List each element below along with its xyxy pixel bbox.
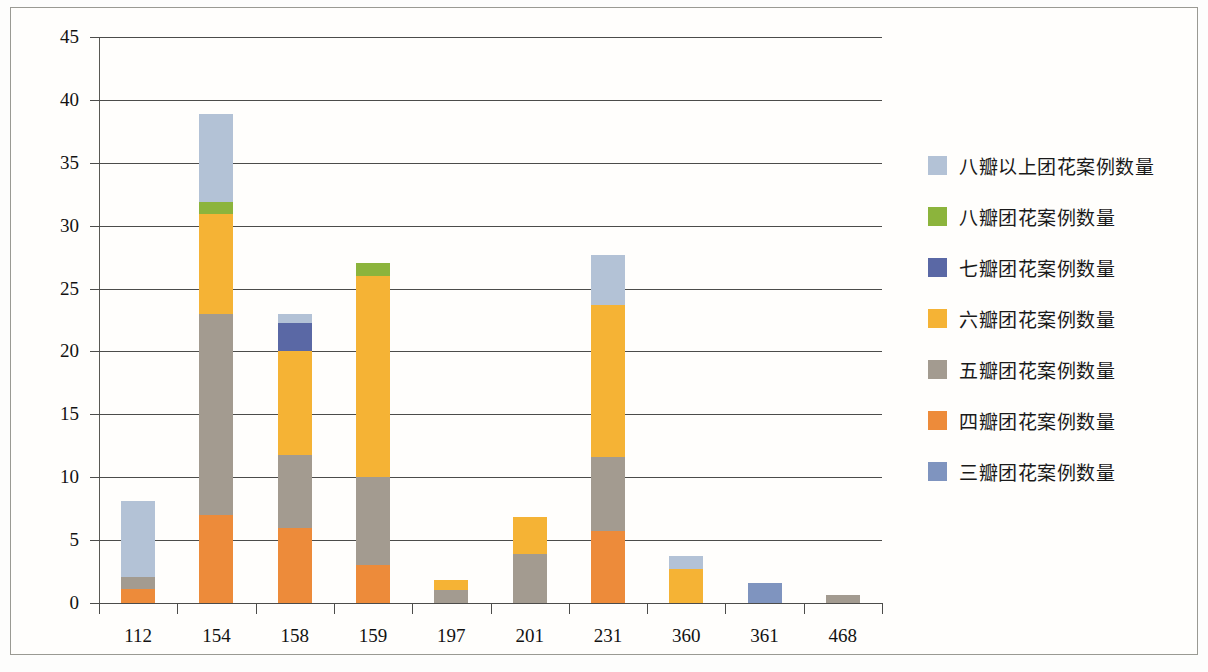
bar-360[interactable] xyxy=(669,37,703,603)
bar-segment[interactable] xyxy=(356,477,390,565)
legend-swatch-icon xyxy=(928,156,947,175)
y-axis-tick xyxy=(90,603,99,604)
x-axis-label: 158 xyxy=(250,626,340,645)
legend-item-label: 五瓣团花案例数量 xyxy=(959,356,1115,383)
x-axis-tick xyxy=(256,603,257,614)
bar-segment[interactable] xyxy=(591,305,625,457)
y-axis-tick xyxy=(90,414,99,415)
bar-segment[interactable] xyxy=(278,351,312,454)
y-axis-label: 15 xyxy=(37,404,79,423)
x-axis-label: 361 xyxy=(720,626,810,645)
legend-swatch-icon xyxy=(928,411,947,430)
y-axis-label: 5 xyxy=(37,530,79,549)
y-axis-tick xyxy=(90,540,99,541)
bar-112[interactable] xyxy=(121,37,155,603)
x-axis-label: 197 xyxy=(406,626,496,645)
y-axis-label: 0 xyxy=(37,593,79,612)
legend-item-label: 七瓣团花案例数量 xyxy=(959,254,1115,281)
x-axis-label: 360 xyxy=(641,626,731,645)
bar-segment[interactable] xyxy=(826,595,860,603)
x-axis-label: 231 xyxy=(563,626,653,645)
legend-swatch-icon xyxy=(928,309,947,328)
x-axis-tick xyxy=(882,603,883,614)
stacked-bar-chart: 051015202530354045 112154158159197201231… xyxy=(0,0,1208,672)
x-axis-tick xyxy=(804,603,805,614)
bar-segment[interactable] xyxy=(278,314,312,323)
bar-segment[interactable] xyxy=(748,583,782,603)
y-axis-tick xyxy=(90,289,99,290)
bar-segment[interactable] xyxy=(434,580,468,590)
bar-segment[interactable] xyxy=(356,276,390,477)
y-axis-tick xyxy=(90,100,99,101)
legend-swatch-icon xyxy=(928,207,947,226)
y-axis-label: 10 xyxy=(37,467,79,486)
bar-segment[interactable] xyxy=(121,589,155,603)
x-axis-label: 468 xyxy=(798,626,888,645)
chart-page: 051015202530354045 112154158159197201231… xyxy=(0,0,1208,672)
x-axis-tick xyxy=(569,603,570,614)
legend-item-label: 四瓣团花案例数量 xyxy=(959,407,1115,434)
bar-segment[interactable] xyxy=(513,554,547,603)
legend-item-label: 六瓣团花案例数量 xyxy=(959,305,1115,332)
y-axis-tick xyxy=(90,163,99,164)
bar-segment[interactable] xyxy=(278,455,312,528)
y-axis-label: 25 xyxy=(37,279,79,298)
legend-item-label: 八瓣以上团花案例数量 xyxy=(959,152,1154,179)
bar-segment[interactable] xyxy=(121,577,155,590)
y-axis-label: 40 xyxy=(37,90,79,109)
x-axis-label: 159 xyxy=(328,626,418,645)
bar-segment[interactable] xyxy=(434,590,468,603)
x-axis-label: 154 xyxy=(171,626,261,645)
bar-segment[interactable] xyxy=(121,501,155,576)
y-axis-tick xyxy=(90,226,99,227)
legend-swatch-icon xyxy=(928,258,947,277)
bar-segment[interactable] xyxy=(199,214,233,313)
bar-segment[interactable] xyxy=(199,515,233,603)
bar-segment[interactable] xyxy=(356,263,390,276)
x-axis-label: 201 xyxy=(485,626,575,645)
y-axis-tick xyxy=(90,477,99,478)
x-axis-tick xyxy=(177,603,178,614)
bar-361[interactable] xyxy=(748,37,782,603)
bar-468[interactable] xyxy=(826,37,860,603)
bar-154[interactable] xyxy=(199,37,233,603)
bar-segment[interactable] xyxy=(278,323,312,352)
bar-segment[interactable] xyxy=(513,517,547,553)
x-axis-tick xyxy=(412,603,413,614)
bar-segment[interactable] xyxy=(669,569,703,603)
legend-item-label: 三瓣团花案例数量 xyxy=(959,458,1115,485)
x-axis-tick xyxy=(725,603,726,614)
x-axis-tick xyxy=(99,603,100,614)
bar-231[interactable] xyxy=(591,37,625,603)
x-axis-label: 112 xyxy=(93,626,183,645)
bar-201[interactable] xyxy=(513,37,547,603)
y-axis-label: 20 xyxy=(37,341,79,360)
legend-swatch-icon xyxy=(928,360,947,379)
bar-159[interactable] xyxy=(356,37,390,603)
bar-segment[interactable] xyxy=(199,314,233,515)
bar-segment[interactable] xyxy=(199,202,233,215)
y-axis-tick xyxy=(90,351,99,352)
bar-segment[interactable] xyxy=(591,255,625,305)
x-axis-tick xyxy=(491,603,492,614)
legend-item-label: 八瓣团花案例数量 xyxy=(959,203,1115,230)
y-axis-label: 45 xyxy=(37,27,79,46)
x-axis-tick xyxy=(334,603,335,614)
bar-segment[interactable] xyxy=(199,114,233,202)
bar-158[interactable] xyxy=(278,37,312,603)
bar-segment[interactable] xyxy=(278,528,312,603)
y-axis-tick xyxy=(90,37,99,38)
x-axis-tick xyxy=(647,603,648,614)
bar-segment[interactable] xyxy=(356,565,390,603)
y-axis-label: 30 xyxy=(37,216,79,235)
bar-segment[interactable] xyxy=(591,531,625,603)
y-axis-label: 35 xyxy=(37,153,79,172)
plot-area xyxy=(99,37,882,603)
bar-197[interactable] xyxy=(434,37,468,603)
bar-segment[interactable] xyxy=(669,556,703,569)
bar-segment[interactable] xyxy=(591,457,625,531)
legend-swatch-icon xyxy=(928,462,947,481)
